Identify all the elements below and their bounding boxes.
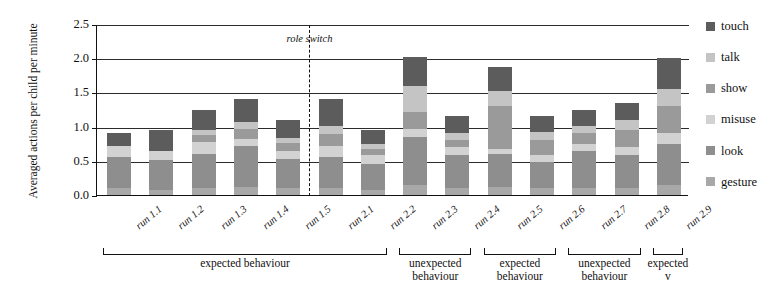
x-tick-label: run 2.5 <box>514 203 544 231</box>
bar-segment-show <box>657 106 681 133</box>
group-label: expected behaviour <box>103 257 387 270</box>
x-tick-label: run 2.7 <box>599 203 629 231</box>
legend-label: gesture <box>721 176 757 189</box>
bar-segment-show <box>319 134 343 146</box>
legend: touchtalkshowmisuselookgesture <box>706 18 784 205</box>
bar-segment-gesture <box>657 185 681 195</box>
x-tick-label: run 1.4 <box>261 203 291 231</box>
bar-segment-touch <box>319 99 343 126</box>
x-tick-label: run 2.8 <box>641 203 671 231</box>
bar-segment-talk <box>530 132 554 140</box>
bar-segment-look <box>276 159 300 188</box>
bar-segment-gesture <box>107 188 131 195</box>
bar-segment-touch <box>445 116 469 133</box>
group-label-line2: behaviour <box>483 270 557 283</box>
group-label-line1: expected <box>631 257 705 270</box>
bar-segment-show <box>192 135 216 142</box>
bar-run-2.2 <box>361 130 385 195</box>
bar-run-2.7 <box>572 110 596 195</box>
bar-segment-look <box>192 154 216 188</box>
x-tick-label: run 2.2 <box>387 203 417 231</box>
y-tick-label: 2.0 <box>53 52 89 65</box>
y-tick-label: 1.0 <box>53 121 89 134</box>
group-label-line1: expected behaviour <box>103 257 387 270</box>
bar-run-1.2 <box>149 130 173 195</box>
bar-segment-talk <box>234 122 258 129</box>
bar-segment-touch <box>615 103 639 121</box>
bar-segment-gesture <box>149 190 173 195</box>
group-label-line2: v <box>631 270 705 283</box>
bar-run-2.8 <box>615 103 639 195</box>
bar-segment-misuse <box>361 155 385 164</box>
legend-swatch-gesture-icon <box>706 177 715 186</box>
bar-segment-touch <box>149 130 173 151</box>
bar-run-2.9 <box>657 58 681 195</box>
bar-segment-touch <box>657 58 681 89</box>
bar-segment-touch <box>107 133 131 145</box>
bar-segment-misuse <box>319 146 343 157</box>
group-label: expectedbehaviour <box>483 257 557 283</box>
bar-segment-misuse <box>615 147 639 155</box>
bar-segment-gesture <box>361 190 385 195</box>
legend-item-gesture: gesture <box>706 174 784 190</box>
group-bracket <box>399 248 471 255</box>
bar-run-1.5 <box>276 120 300 195</box>
x-tick-label: run 1.2 <box>176 203 206 231</box>
bar-segment-gesture <box>319 188 343 195</box>
legend-swatch-look-icon <box>706 146 715 155</box>
legend-item-misuse: misuse <box>706 112 784 128</box>
bar-segment-touch <box>488 67 512 91</box>
bar-segment-misuse <box>276 151 300 159</box>
legend-swatch-touch-icon <box>706 22 715 31</box>
gridline <box>97 59 689 60</box>
bar-segment-look <box>149 160 173 189</box>
bar-segment-touch <box>234 99 258 122</box>
bar-segment-misuse <box>403 129 427 137</box>
role-switch-label: role switch <box>286 33 332 44</box>
group-label: unexpectedbehaviour <box>398 257 472 283</box>
bar-segment-touch <box>192 110 216 131</box>
bar-segment-misuse <box>234 139 258 146</box>
bar-segment-talk <box>445 133 469 140</box>
bar-segment-show <box>530 140 554 155</box>
bar-segment-misuse <box>445 147 469 155</box>
bar-segment-show <box>361 149 385 156</box>
bar-segment-show <box>276 143 300 151</box>
bar-segment-touch <box>361 130 385 144</box>
legend-label: touch <box>721 20 749 33</box>
bar-segment-misuse <box>572 144 596 151</box>
group-label-line2: behaviour <box>398 270 472 283</box>
bar-segment-talk <box>403 86 427 112</box>
legend-label: show <box>721 82 747 95</box>
bar-segment-show <box>445 140 469 147</box>
group-label-line1: unexpected <box>398 257 472 270</box>
bar-segment-touch <box>276 120 300 138</box>
legend-label: talk <box>721 51 740 64</box>
bar-segment-show <box>234 129 258 139</box>
bar-segment-misuse <box>192 142 216 154</box>
plot-area: 0.00.51.01.52.02.5role switch <box>96 25 688 196</box>
bar-segment-talk <box>319 126 343 134</box>
y-tick-mark <box>92 25 97 26</box>
bar-segment-misuse <box>149 151 173 161</box>
x-tick-label: run 1.5 <box>303 203 333 231</box>
y-tick-mark <box>92 196 97 197</box>
bar-run-1.1 <box>107 133 131 195</box>
gridline <box>97 93 689 94</box>
legend-label: look <box>721 145 743 158</box>
gridline <box>97 162 689 163</box>
bar-segment-gesture <box>234 187 258 195</box>
y-tick-label: 0.0 <box>53 189 89 202</box>
role-switch-line <box>309 25 310 196</box>
bar-segment-show <box>572 133 596 144</box>
bar-run-1.3 <box>192 110 216 195</box>
bar-segment-look <box>530 162 554 188</box>
bar-segment-gesture <box>445 188 469 195</box>
y-tick-mark <box>92 93 97 94</box>
bar-segment-talk <box>488 91 512 106</box>
bar-segment-gesture <box>192 188 216 195</box>
bar-run-2.6 <box>530 116 554 195</box>
group-bracket <box>103 248 387 255</box>
x-tick-label: run 2.1 <box>345 203 375 231</box>
group-bracket <box>484 248 556 255</box>
